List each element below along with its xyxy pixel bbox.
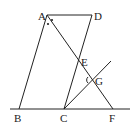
angle-mark-dot-1 [51,19,53,21]
label-f: F [109,112,115,124]
label-g: G [95,75,103,87]
label-e: E [81,56,88,68]
segment-af [47,15,113,109]
label-a: A [38,10,46,22]
label-c: C [60,112,67,124]
angle-mark-dot-2 [47,23,49,25]
label-b: B [14,112,21,124]
label-d: D [94,10,102,22]
angle-arc-g [87,77,88,83]
segment-ab [19,15,47,109]
geometry-diagram: A D B C F E G [0,0,140,126]
